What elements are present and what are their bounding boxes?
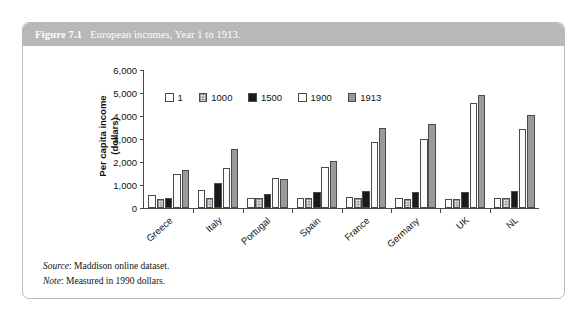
bar xyxy=(470,103,477,208)
x-axis-label-cell: NL xyxy=(489,210,538,256)
figure-caption-bar: Figure 7.1 European incomes, Year 1 to 1… xyxy=(23,23,564,46)
bar-group xyxy=(391,70,440,208)
bar xyxy=(395,198,402,208)
y-axis-tick-mark xyxy=(140,139,144,140)
bar xyxy=(247,198,254,208)
bar xyxy=(272,178,279,208)
source-label: Source xyxy=(43,261,69,271)
x-axis-label-cell: France xyxy=(341,210,390,256)
bar-group xyxy=(144,70,193,208)
y-axis-tick-label: 3,000 xyxy=(89,134,144,145)
x-axis-labels: GreeceItalyPortugalSpainFranceGermanyUKN… xyxy=(143,210,538,256)
x-axis-label-cell: Germany xyxy=(390,210,439,256)
note-label: Note xyxy=(43,276,61,286)
x-axis-label-cell: UK xyxy=(439,210,488,256)
figure-notes: Source: Maddison online dataset. Note: M… xyxy=(43,259,543,289)
bar xyxy=(321,167,328,208)
bar xyxy=(305,198,312,208)
bar xyxy=(198,190,205,208)
bar xyxy=(330,161,337,208)
bar xyxy=(453,199,460,208)
y-axis-tick-label: 2,000 xyxy=(89,157,144,168)
bar-group xyxy=(193,70,242,208)
x-axis-tick-label: UK xyxy=(454,214,471,231)
y-axis-tick-label: 1,000 xyxy=(89,180,144,191)
bar xyxy=(420,139,427,208)
x-axis-label-cell: Greece xyxy=(143,210,192,256)
bar xyxy=(461,192,468,208)
bar xyxy=(354,198,361,208)
y-axis-tick-mark xyxy=(140,162,144,163)
y-axis-tick-mark xyxy=(140,93,144,94)
y-axis-tick-label: 4,000 xyxy=(89,111,144,122)
x-axis-tick-label: Italy xyxy=(204,214,224,234)
bar-group xyxy=(440,70,489,208)
bar xyxy=(404,199,411,208)
x-axis-tick-label: NL xyxy=(504,214,520,230)
bar xyxy=(165,198,172,208)
bar xyxy=(206,198,213,208)
bar xyxy=(527,115,534,208)
bar xyxy=(346,197,353,208)
plot-area: 01,0002,0003,0004,0005,0006,000 xyxy=(143,70,539,209)
bar xyxy=(264,194,271,208)
bar xyxy=(214,183,221,208)
source-note: Source: Maddison online dataset. xyxy=(43,259,543,274)
x-axis-label-cell: Portugal xyxy=(242,210,291,256)
x-axis-tick-label: Portugal xyxy=(239,215,273,247)
x-axis-tick-label: Germany xyxy=(384,215,420,249)
bar xyxy=(148,195,155,208)
measurement-note: Note: Measured in 1990 dollars. xyxy=(43,274,543,289)
bar xyxy=(478,95,485,208)
bar xyxy=(173,174,180,209)
y-axis-tick-label: 6,000 xyxy=(89,65,144,76)
bar xyxy=(182,170,189,208)
bar xyxy=(297,198,304,208)
bar xyxy=(519,129,526,208)
bar xyxy=(223,168,230,208)
bar xyxy=(445,199,452,208)
x-axis-tick-label: Greece xyxy=(144,215,175,244)
figure-frame: Figure 7.1 European incomes, Year 1 to 1… xyxy=(22,22,565,299)
y-axis-tick-label: 5,000 xyxy=(89,88,144,99)
bar xyxy=(511,191,518,209)
bar xyxy=(412,192,419,208)
bar xyxy=(280,179,287,208)
bar-groups xyxy=(144,70,539,208)
x-axis-tick-label: France xyxy=(342,215,371,243)
bar xyxy=(362,191,369,208)
bar xyxy=(313,192,320,208)
bar xyxy=(231,149,238,208)
bar xyxy=(494,198,501,208)
y-axis-tick-mark xyxy=(140,70,144,71)
figure-title: European incomes, Year 1 to 1913. xyxy=(90,29,240,40)
x-axis-label-cell: Italy xyxy=(192,210,241,256)
bar-group xyxy=(490,70,539,208)
y-axis-tick-mark xyxy=(140,185,144,186)
bar-group xyxy=(243,70,292,208)
bar xyxy=(255,198,262,208)
y-axis-tick-mark xyxy=(140,116,144,117)
bar xyxy=(379,128,386,208)
bar xyxy=(428,124,435,208)
bar xyxy=(502,198,509,208)
x-axis-label-cell: Spain xyxy=(291,210,340,256)
bar xyxy=(157,199,164,208)
figure-label: Figure 7.1 xyxy=(35,29,82,40)
y-axis-tick-label: 0 xyxy=(89,203,144,214)
bar-group xyxy=(292,70,341,208)
source-text: : Maddison online dataset. xyxy=(69,261,169,271)
bar xyxy=(371,142,378,208)
bar-group xyxy=(342,70,391,208)
note-text: : Measured in 1990 dollars. xyxy=(61,276,165,286)
x-axis-tick-label: Spain xyxy=(297,215,322,239)
chart-area: Per capita income (dollars) 110001500190… xyxy=(23,46,565,256)
y-axis-tick-mark xyxy=(140,208,144,209)
